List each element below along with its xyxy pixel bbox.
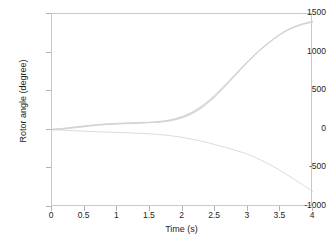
x-axis-title: Time (s) [51, 224, 312, 234]
x-tick-label: 1 [101, 211, 131, 220]
y-tick-label: 1000 [282, 47, 326, 56]
y-tick-label: -500 [282, 162, 326, 171]
x-tick-label: 0.5 [69, 211, 99, 220]
y-tick-mark [46, 129, 51, 130]
data-line-unstable-rising-trace-2 [52, 22, 313, 130]
x-tick-label: 4 [297, 211, 327, 220]
y-tick-mark [46, 90, 51, 91]
data-line-unstable-rising-trace-3 [52, 21, 313, 129]
x-tick-label: 0 [36, 211, 66, 220]
y-tick-label: 0 [282, 124, 326, 133]
x-tick-label: 2 [167, 211, 197, 220]
y-tick-mark [46, 167, 51, 168]
x-tick-label: 3.5 [264, 211, 294, 220]
x-tick-label: 1.5 [134, 211, 164, 220]
y-axis-title: Rotor angle (degree) [18, 31, 28, 171]
y-tick-label: -1000 [282, 201, 326, 210]
y-tick-label: 500 [282, 85, 326, 94]
x-tick-label: 3 [232, 211, 262, 220]
plot-area [51, 13, 312, 206]
x-tick-label: 2.5 [199, 211, 229, 220]
y-tick-mark [46, 13, 51, 14]
data-line-unstable-rising-trace-1 [52, 21, 313, 129]
plot-curves [52, 14, 313, 207]
data-line-diverging-falling-trace [52, 130, 313, 192]
y-tick-label: 1500 [282, 8, 326, 17]
y-tick-mark [46, 52, 51, 53]
